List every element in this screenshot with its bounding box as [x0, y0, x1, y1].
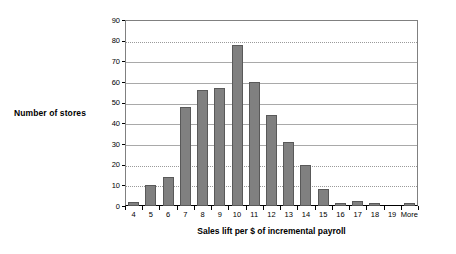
- bar-chart: Number of stores 90 80 70 60 50 40 30 20…: [0, 0, 456, 254]
- x-axis-title: Sales lift per $ of incremental payroll: [125, 226, 418, 236]
- bar: [300, 165, 311, 206]
- x-tick-label: 12: [263, 210, 280, 220]
- x-tick-label: 16: [332, 210, 349, 220]
- bar: [214, 88, 225, 206]
- y-axis-title: Number of stores: [14, 108, 114, 118]
- y-tick-label: 10: [98, 182, 120, 190]
- x-tick-label: 15: [315, 210, 332, 220]
- y-tick-label: 60: [98, 79, 120, 87]
- x-tick-label: 17: [349, 210, 366, 220]
- bar: [249, 82, 260, 206]
- bar: [318, 189, 329, 206]
- y-tick-label: 90: [98, 17, 120, 25]
- bar: [197, 90, 208, 206]
- x-tick-label: 13: [280, 210, 297, 220]
- x-tick-label: 18: [366, 210, 383, 220]
- bars-container: [125, 20, 418, 206]
- x-tick-mark: [418, 206, 419, 210]
- y-tick-label: 70: [98, 58, 120, 66]
- y-tick-label: 20: [98, 161, 120, 169]
- x-tick-label: 6: [159, 210, 176, 220]
- bar: [232, 45, 243, 206]
- bar: [180, 107, 191, 206]
- y-tick-label: 50: [98, 99, 120, 107]
- bar: [163, 177, 174, 206]
- x-tick-label: 8: [194, 210, 211, 220]
- x-tick-label: 14: [297, 210, 314, 220]
- x-tick-label: 5: [142, 210, 159, 220]
- x-tick-label: 19: [384, 210, 401, 220]
- x-tick-label: 10: [228, 210, 245, 220]
- bar: [283, 142, 294, 206]
- x-tick-label: 7: [177, 210, 194, 220]
- y-tick-label: 40: [98, 120, 120, 128]
- x-tick-label: 4: [125, 210, 142, 220]
- bar: [145, 185, 156, 206]
- y-tick-label: 80: [98, 37, 120, 45]
- bar: [266, 115, 277, 206]
- x-tick-label: 9: [211, 210, 228, 220]
- x-tick-label: 11: [246, 210, 263, 220]
- x-axis-tick-labels: 45678910111213141516171819More: [125, 210, 418, 222]
- x-tick-label: More: [401, 210, 418, 220]
- y-tick-label: 0: [98, 203, 120, 211]
- y-tick-label: 30: [98, 141, 120, 149]
